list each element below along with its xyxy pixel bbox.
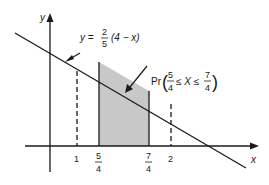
equation-rhs: (4 − x) <box>111 32 140 43</box>
tick-label-7-4-den: 4 <box>146 164 151 174</box>
tick-label-5-4-den: 4 <box>96 164 101 174</box>
equation-arrow-icon <box>65 55 74 62</box>
equation-frac-den: 5 <box>102 39 107 49</box>
pr-lower-num: 5 <box>168 70 173 80</box>
pr-lower-den: 4 <box>168 83 173 93</box>
region-leader <box>130 66 147 87</box>
pr-upper-num: 7 <box>205 70 210 80</box>
x-axis-arrow-icon <box>250 143 259 150</box>
diagram: y x y = 2 5 (4 − x) Pr ( 5 4 ≤ X ≤ 7 4 )… <box>0 0 269 185</box>
y-axis-arrow-icon <box>47 13 54 22</box>
pr-close-paren: ) <box>212 72 218 92</box>
pr-middle: ≤ X ≤ <box>176 76 200 87</box>
tick-label-7-4-num: 7 <box>146 151 151 161</box>
pr-prefix: Pr <box>151 76 162 87</box>
pr-upper-den: 4 <box>205 83 210 93</box>
tick-label-2: 2 <box>168 154 173 164</box>
equation-lhs: y = <box>79 32 94 43</box>
y-axis-label: y <box>39 12 46 23</box>
equation-frac-num: 2 <box>102 27 107 37</box>
tick-label-1: 1 <box>74 154 79 164</box>
shaded-probability-region <box>99 62 149 146</box>
tick-label-5-4-num: 5 <box>96 151 101 161</box>
x-axis-label: x <box>250 154 257 165</box>
